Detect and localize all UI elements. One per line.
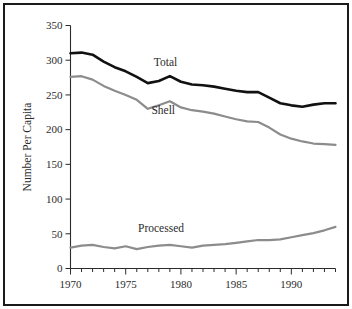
figure-container: 050100150200250300350 197019751980198519…	[0, 0, 352, 309]
y-tick-label: 100	[46, 193, 63, 205]
line-chart: 050100150200250300350 197019751980198519…	[0, 0, 352, 309]
x-tick-label: 1985	[225, 278, 248, 290]
y-axis-title-text: Number Per Capita	[21, 103, 34, 192]
y-tick-label: 50	[52, 228, 64, 240]
y-tick-label: 250	[46, 89, 63, 101]
series-line-total	[71, 53, 336, 107]
series-label-total: Total	[154, 56, 177, 68]
x-tick-label: 1970	[60, 278, 83, 290]
y-tick-label: 300	[46, 54, 63, 66]
x-tick-label: 1980	[170, 278, 193, 290]
x-tick-label: 1975	[115, 278, 138, 290]
series-lines	[71, 53, 336, 249]
y-tick-label: 200	[46, 123, 63, 135]
series-label-shell: Shell	[151, 104, 175, 116]
y-axis-title: Number Per Capita	[21, 103, 34, 192]
series-label-processed: Processed	[138, 222, 184, 234]
y-tick-label: 350	[46, 19, 63, 31]
y-axis: 050100150200250300350	[46, 19, 71, 274]
y-tick-label: 0	[57, 262, 63, 274]
y-tick-label: 150	[46, 158, 63, 170]
plot-area: 050100150200250300350 197019751980198519…	[21, 19, 336, 289]
x-tick-label: 1990	[280, 278, 303, 290]
series-line-processed	[71, 227, 336, 249]
x-axis: 19701975198019851990	[60, 269, 336, 290]
